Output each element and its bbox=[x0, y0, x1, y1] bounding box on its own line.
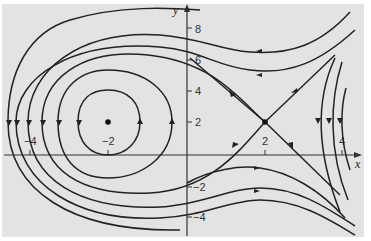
arrow-down-icon bbox=[14, 120, 20, 126]
arrow-down-icon bbox=[315, 118, 321, 124]
y-tick-label: 2 bbox=[195, 116, 201, 128]
right-curve-2 bbox=[333, 62, 348, 200]
lower-curve-1 bbox=[187, 167, 345, 218]
arrow-upright-icon bbox=[232, 142, 239, 148]
phase-portrait-figure: −4 −2 2 4 8 6 4 2 −2 −4 x y bbox=[0, 0, 371, 241]
arrow-left-icon bbox=[256, 73, 262, 77]
direction-arrows bbox=[6, 49, 343, 193]
arrow-right-icon bbox=[254, 189, 260, 193]
arrow-down-icon bbox=[56, 120, 62, 126]
x-axis-label: x bbox=[354, 157, 361, 171]
arrow-down-icon bbox=[40, 120, 46, 126]
arrow-down-icon bbox=[6, 120, 12, 126]
separatrix-loop bbox=[42, 54, 265, 193]
center-point bbox=[105, 119, 111, 125]
arrow-down-icon bbox=[26, 120, 32, 126]
ticks bbox=[30, 28, 342, 217]
phase-portrait-svg: −4 −2 2 4 8 6 4 2 −2 −4 x y bbox=[0, 0, 371, 241]
y-tick-label: 4 bbox=[195, 85, 201, 97]
y-axis-label: y bbox=[172, 3, 179, 17]
separatrix-se bbox=[265, 122, 340, 195]
y-axis-arrow-icon bbox=[184, 4, 190, 12]
arrow-right-icon bbox=[254, 166, 260, 170]
arrow-down-icon bbox=[326, 118, 332, 124]
arrow-up-icon bbox=[169, 118, 175, 124]
separatrix-nw bbox=[190, 58, 265, 122]
right-curve-3 bbox=[342, 88, 350, 170]
y-tick-label: 8 bbox=[195, 23, 201, 35]
orbit-2 bbox=[58, 70, 172, 178]
x-tick-label: 2 bbox=[262, 135, 268, 147]
arrow-down-icon bbox=[76, 120, 82, 126]
arrow-up-icon bbox=[137, 118, 143, 124]
saddle-point bbox=[262, 119, 268, 125]
x-tick-label: −2 bbox=[102, 135, 115, 147]
outer-orbit-1 bbox=[28, 12, 355, 226]
